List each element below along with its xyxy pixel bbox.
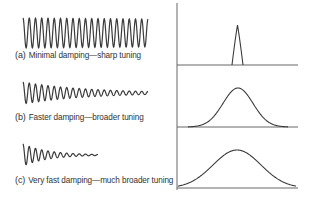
label-a-text: Minimal damping—sharp tuning [29, 51, 141, 60]
label-b: (b)Faster damping—broader tuning [15, 112, 144, 122]
damping-diagram [0, 0, 310, 200]
wave-c-very-fast-damping [23, 144, 98, 165]
label-b-tag: (b) [15, 112, 26, 122]
label-a: (a)Minimal damping—sharp tuning [15, 50, 141, 60]
label-c-tag: (c) [15, 175, 25, 185]
resonance-curve-c-much-broader [178, 150, 296, 186]
resonance-curve-a-sharp [232, 25, 243, 65]
label-c-text: Very fast damping—much broader tuning [28, 176, 173, 185]
label-a-tag: (a) [15, 50, 26, 60]
resonance-curve-b-broader [188, 88, 288, 127]
label-c: (c)Very fast damping—much broader tuning [15, 175, 173, 185]
wave-b-faster-damping [23, 82, 148, 103]
wave-a-minimal-damping [23, 18, 148, 48]
label-b-text: Faster damping—broader tuning [29, 113, 144, 122]
